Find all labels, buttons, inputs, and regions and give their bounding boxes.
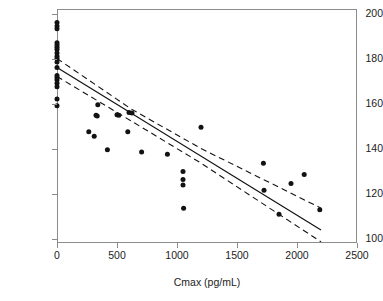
regression-line — [57, 68, 321, 230]
data-point — [55, 84, 60, 89]
data-point — [92, 134, 97, 139]
y-tick-mark — [52, 59, 57, 60]
x-tick-mark — [357, 243, 358, 248]
data-layer — [57, 9, 357, 243]
scatter-plot-figure: 100120140160180200 05001000150020002500 … — [0, 0, 383, 301]
y-tick-label: 100 — [335, 233, 383, 244]
x-tick-label: 0 — [35, 250, 79, 261]
data-point — [262, 188, 267, 193]
y-tick-mark — [52, 239, 57, 240]
x-tick-label: 1500 — [215, 250, 259, 261]
data-point — [302, 172, 307, 177]
data-point — [55, 26, 60, 31]
data-point — [139, 149, 144, 154]
y-tick-mark — [52, 149, 57, 150]
data-point — [181, 169, 186, 174]
x-tick-mark — [57, 243, 58, 248]
data-point — [181, 206, 186, 211]
data-point — [277, 212, 282, 217]
y-tick-mark — [52, 194, 57, 195]
data-point — [181, 182, 186, 187]
plot-area — [57, 9, 357, 243]
x-tick-mark — [297, 243, 298, 248]
confidence-band-lower — [57, 77, 321, 242]
data-point — [116, 113, 121, 118]
data-point — [55, 97, 60, 102]
y-tick-label: 180 — [335, 53, 383, 64]
data-point — [199, 125, 204, 130]
y-tick-label: 120 — [335, 188, 383, 199]
x-tick-mark — [237, 243, 238, 248]
x-tick-label: 500 — [95, 250, 139, 261]
data-point — [181, 177, 186, 182]
data-point — [55, 59, 60, 64]
data-points-group — [55, 20, 323, 217]
data-point — [105, 147, 110, 152]
data-point — [95, 113, 100, 118]
y-tick-label: 200 — [335, 8, 383, 19]
data-point — [261, 161, 266, 166]
x-tick-label: 1000 — [155, 250, 199, 261]
x-tick-mark — [117, 243, 118, 248]
regression-line-group — [57, 68, 321, 230]
y-tick-mark — [52, 104, 57, 105]
data-point — [317, 207, 322, 212]
y-axis-title-wrap: Glucose level (mg/dL) — [11, 0, 12, 252]
y-tick-label: 140 — [335, 143, 383, 154]
data-point — [130, 110, 135, 115]
data-point — [86, 129, 91, 134]
data-point — [95, 102, 100, 107]
data-point — [55, 65, 60, 70]
y-tick-label: 160 — [335, 98, 383, 109]
data-point — [165, 152, 170, 157]
x-tick-label: 2000 — [275, 250, 319, 261]
x-tick-label: 2500 — [335, 250, 379, 261]
data-point — [289, 181, 294, 186]
x-axis-title: Cmax (pg/mL) — [57, 276, 357, 288]
data-point — [125, 129, 130, 134]
confidence-band-upper — [57, 59, 321, 209]
y-tick-mark — [52, 14, 57, 15]
x-tick-mark — [177, 243, 178, 248]
